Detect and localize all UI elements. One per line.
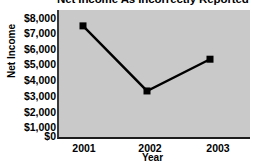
y-tick-label: $8,000: [10, 12, 56, 25]
data-line: [83, 26, 210, 91]
plot-area: [57, 10, 250, 139]
y-tick-label: $0: [10, 130, 56, 143]
y-tick-label: $5,000: [10, 58, 56, 71]
chart-figure: Net Income As Incorrectly Reported Net I…: [0, 0, 253, 163]
y-tick-label: $3,000: [10, 90, 56, 103]
chart-title: Net Income As Incorrectly Reported: [57, 0, 253, 6]
data-point-marker: [144, 87, 151, 94]
y-tick-label: $6,000: [10, 43, 56, 56]
line-series-svg: [59, 10, 250, 137]
data-point-marker: [80, 22, 87, 29]
y-tick-label: $4,000: [10, 74, 56, 87]
y-axis-tick-labels: $8,000 $7,000 $6,000 $5,000 $4,000 $3,00…: [10, 6, 56, 137]
y-tick-label: $2,000: [10, 106, 56, 119]
x-axis-title: Year: [57, 152, 248, 163]
y-tick-label: $7,000: [10, 27, 56, 40]
data-point-marker: [207, 56, 214, 63]
